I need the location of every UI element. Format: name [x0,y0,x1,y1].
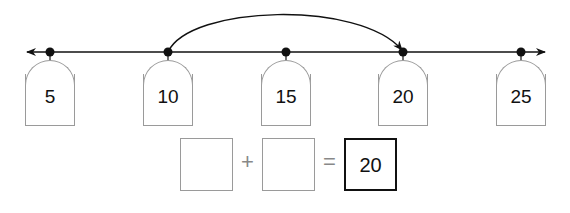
tick-label-25: 25 [496,74,546,126]
tick-label-5: 5 [25,74,75,126]
tick-label-10: 10 [143,74,193,126]
tick-label-15: 15 [261,74,311,126]
sum-box: 20 [344,138,397,191]
equals-sign: = [323,149,336,175]
jump-arc [168,15,402,52]
addend1-box[interactable] [180,138,233,191]
plus-sign: + [241,149,254,175]
addend2-box[interactable] [262,138,315,191]
tick-label-20: 20 [378,74,428,126]
